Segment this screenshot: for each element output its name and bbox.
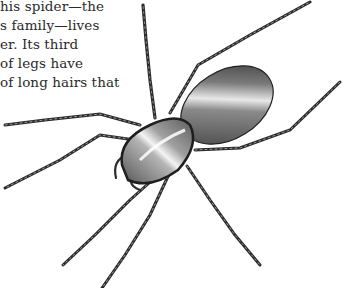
cephalothorax bbox=[122, 119, 194, 184]
spider-illustration bbox=[0, 0, 344, 288]
